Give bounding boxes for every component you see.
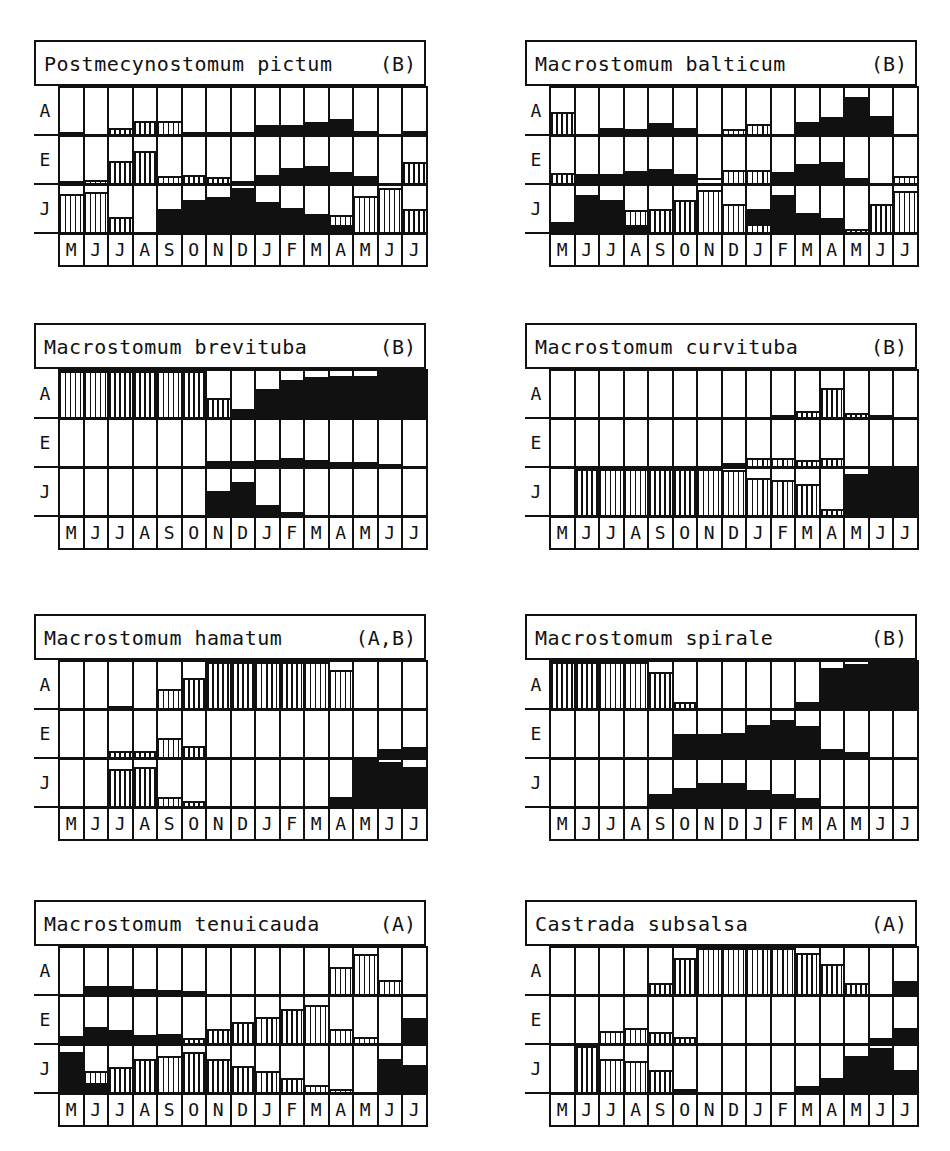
stage-cell xyxy=(721,369,748,419)
month-label: J xyxy=(598,1093,625,1127)
stage-cell xyxy=(58,660,85,710)
solid-bar xyxy=(403,131,426,134)
stage-cell xyxy=(868,135,895,185)
stage-cell xyxy=(794,418,821,468)
stage-cell xyxy=(647,467,674,517)
solid-bar xyxy=(232,409,255,417)
hatched-bar xyxy=(85,180,108,183)
month-label: M xyxy=(794,516,821,550)
solid-bar xyxy=(60,132,83,134)
stage-cell xyxy=(279,418,306,468)
hatched-bar xyxy=(281,1078,304,1092)
hatched-bar xyxy=(109,371,132,417)
hatched-bar xyxy=(256,662,279,708)
stage-cell xyxy=(328,758,355,808)
solid-bar xyxy=(845,752,868,757)
solid-bar xyxy=(134,1035,157,1043)
solid-bar xyxy=(158,209,181,232)
hatched-bar xyxy=(207,1029,230,1043)
stage-cell xyxy=(156,660,183,710)
stage-cell xyxy=(770,86,797,136)
stage-cell xyxy=(107,467,134,517)
solid-bar xyxy=(649,123,672,135)
solid-bar xyxy=(183,200,206,232)
stage-cell xyxy=(770,418,797,468)
hatched-bar xyxy=(232,1066,255,1092)
stage-cell xyxy=(328,946,355,996)
stage-cell xyxy=(892,709,919,759)
month-label: M xyxy=(352,1093,379,1127)
month-label: A xyxy=(132,516,159,550)
stage-cell xyxy=(181,86,208,136)
stage-cell xyxy=(107,995,134,1045)
solid-bar xyxy=(796,726,819,757)
month-label: S xyxy=(647,233,674,267)
stage-cell xyxy=(672,758,699,808)
hatched-bar xyxy=(207,177,230,183)
stage-cell xyxy=(892,946,919,996)
month-label: J xyxy=(868,233,895,267)
hatched-bar xyxy=(305,1085,328,1092)
month-label: M xyxy=(843,233,870,267)
white-bar xyxy=(698,178,721,183)
solid-bar xyxy=(821,1078,844,1092)
solid-bar xyxy=(845,1056,868,1092)
stage-cell xyxy=(83,135,110,185)
hatched-bar xyxy=(109,161,132,183)
solid-bar xyxy=(60,1052,83,1092)
stage-cell xyxy=(254,1044,281,1094)
row-label-j: J xyxy=(34,481,56,502)
stage-cell xyxy=(770,709,797,759)
stage-cell xyxy=(672,995,699,1045)
stage-cell xyxy=(745,418,772,468)
solid-bar xyxy=(256,125,279,134)
stage-cell xyxy=(107,184,134,234)
month-label: J xyxy=(107,807,134,841)
species-name: Macrostomum tenuicauda xyxy=(44,912,320,936)
solid-bar xyxy=(281,125,304,134)
month-label: D xyxy=(230,1093,257,1127)
stage-cell xyxy=(132,184,159,234)
month-label: M xyxy=(549,516,576,550)
stage-cell xyxy=(868,1044,895,1094)
stage-cell xyxy=(279,946,306,996)
stage-cell xyxy=(672,467,699,517)
hatched-bar xyxy=(134,121,157,134)
month-label: N xyxy=(205,807,232,841)
hatched-bar xyxy=(747,224,770,232)
stage-cell xyxy=(279,709,306,759)
stage-cell xyxy=(181,418,208,468)
stage-cell xyxy=(647,946,674,996)
row-label-a: A xyxy=(525,383,547,404)
species-name: Macrostomum spirale xyxy=(535,626,773,650)
solid-bar xyxy=(698,783,721,806)
month-label: N xyxy=(205,233,232,267)
stage-cell xyxy=(132,660,159,710)
solid-bar xyxy=(183,991,206,994)
stage-cell xyxy=(254,369,281,419)
panel-title-box: Macrostomum hamatum(A,B) xyxy=(34,614,426,660)
stage-cell xyxy=(892,369,919,419)
hatched-bar xyxy=(183,678,206,708)
stage-cell xyxy=(156,135,183,185)
stage-cell xyxy=(794,946,821,996)
month-label: A xyxy=(328,1093,355,1127)
stage-cell xyxy=(58,709,85,759)
stage-cell xyxy=(721,467,748,517)
stage-cell xyxy=(794,660,821,710)
month-label: J xyxy=(254,1093,281,1127)
solid-bar xyxy=(60,181,83,183)
solid-bar xyxy=(85,986,108,994)
stage-cell xyxy=(549,369,576,419)
month-label: J xyxy=(107,233,134,267)
solid-bar xyxy=(134,989,157,994)
stage-cell xyxy=(598,369,625,419)
solid-bar xyxy=(772,172,795,183)
stage-cell xyxy=(574,369,601,419)
stage-cell xyxy=(623,86,650,136)
month-label: J xyxy=(745,233,772,267)
month-label: N xyxy=(696,1093,723,1127)
solid-bar xyxy=(747,725,770,757)
stage-cell xyxy=(83,758,110,808)
hatched-bar xyxy=(723,470,746,515)
